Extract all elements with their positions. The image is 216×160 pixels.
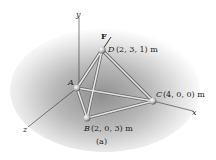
joint-A	[74, 85, 80, 91]
x-axis-label: x	[192, 108, 197, 117]
point-D-name: D	[107, 45, 115, 54]
point-B-name: B	[83, 124, 90, 133]
point-D-coords: (2, 3, 1) m	[116, 45, 158, 54]
point-C-name: C	[156, 90, 162, 99]
joint-B	[84, 115, 91, 122]
y-axis-label: y	[75, 10, 81, 19]
force-label: F	[101, 31, 107, 41]
point-C-coords: (4, 0, 0) m	[163, 90, 205, 99]
frame-diagram: y z x F D (2, 3, 1) m A C (4, 0, 0) m B …	[0, 0, 216, 160]
point-A-name: A	[67, 78, 74, 87]
point-B-coords: (2, 0, 3) m	[91, 124, 133, 133]
tetrapod-frame-figure: y z x F D (2, 3, 1) m A C (4, 0, 0) m B …	[0, 0, 216, 160]
figure-caption: (a)	[96, 137, 107, 146]
joint-D	[98, 46, 105, 53]
z-axis-label: z	[22, 125, 28, 134]
